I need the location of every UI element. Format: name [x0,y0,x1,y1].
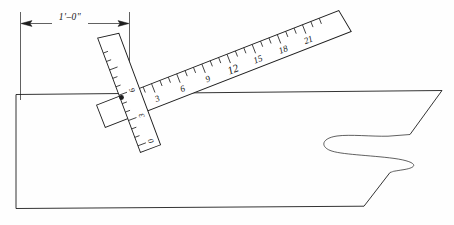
pivot-dot [119,95,124,100]
hull-deck-line [16,91,442,95]
hull-outline [16,91,442,209]
drawing-sheet: 0 3 6 9 12 15 18 21 [0,0,454,225]
hull-curve-profile [324,135,414,173]
hull-lower-stem [364,173,390,207]
dimension-label: 1'–0" [59,12,82,22]
technical-drawing-canvas: 0 3 6 9 12 15 18 21 [0,0,454,225]
hull-upper-sheer [410,91,442,135]
hull-keel-line [16,206,364,208]
